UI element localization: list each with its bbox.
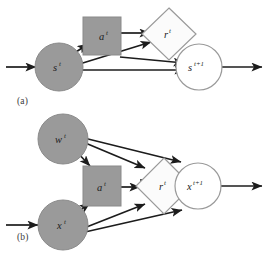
node-s_t-base: s <box>53 62 57 73</box>
node-b-x_t1: x t+1 <box>175 163 221 209</box>
node-b-x_t1-sup: t+1 <box>193 179 203 186</box>
panel-a-label: (a) <box>17 96 28 106</box>
node-b-a_t-base: a <box>97 182 102 193</box>
panel-a-graph: a t r t s t s t+1 <box>0 0 272 128</box>
node-s_t1: s t+1 <box>176 44 222 90</box>
node-a_t-base: a <box>99 31 104 42</box>
edge-x_t-to-r_t <box>84 204 145 228</box>
node-b-x_t1-base: x <box>186 181 192 192</box>
node-s_t: s t <box>35 43 83 91</box>
figure-canvas: a t r t s t s t+1 (a) <box>0 0 272 257</box>
node-b-w_t-base: w <box>55 134 62 145</box>
panel-b-graph: a t r t w t x t <box>0 110 272 257</box>
panel-b: a t r t w t x t <box>0 110 272 257</box>
node-a_t: a t <box>83 17 121 55</box>
node-s_t1-base: s <box>188 62 192 73</box>
node-b-x_t-base: x <box>56 220 62 231</box>
edge-w_t-to-x_t1 <box>84 138 181 162</box>
edge-a_t-to-s_t1 <box>120 57 184 63</box>
node-s_t1-sup: t+1 <box>194 60 204 67</box>
node-b-a_t: a t <box>83 166 121 206</box>
node-b-w_t: w t <box>38 114 88 164</box>
panel-b-label: (b) <box>17 232 29 242</box>
node-b-x_t: x t <box>38 200 88 250</box>
panel-a: a t r t s t s t+1 <box>0 0 272 128</box>
